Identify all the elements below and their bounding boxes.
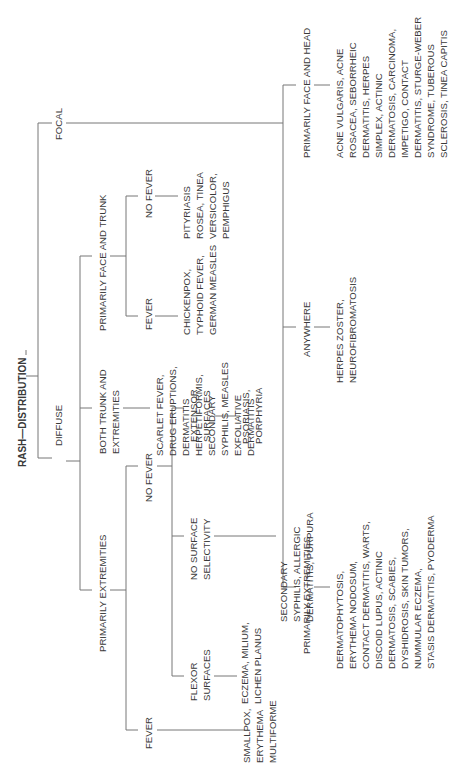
svg-text:CHICKENPOX,: CHICKENPOX, bbox=[181, 269, 192, 335]
svg-text:TYPHOID FEVER,: TYPHOID FEVER, bbox=[194, 255, 205, 335]
leaf-pft-fever: CHICKENPOX, TYPHOID FEVER, GERMAN MEASLE… bbox=[181, 245, 218, 335]
node-pft-no-fever: NO FEVER bbox=[143, 169, 154, 218]
svg-text:VERSICOLOR,: VERSICOLOR, bbox=[207, 173, 218, 239]
svg-text:EXFOLIATIVE: EXFOLIATIVE bbox=[232, 395, 243, 456]
svg-text:SIMPLEX, ACTINIC: SIMPLEX, ACTINIC bbox=[373, 73, 384, 158]
leaf-focal-anywhere: HERPES ZOSTER, NEUROFIBROMATOSIS bbox=[334, 277, 358, 383]
svg-text:SECONDARY: SECONDARY bbox=[278, 561, 289, 622]
leaf-no-surface: SECONDARY SYPHILIS, ALLERGIC DERMATITIS,… bbox=[278, 512, 315, 622]
node-both-trunk-line2: EXTREMITIES bbox=[110, 390, 121, 454]
node-focal-face-head: PRIMARILY FACE AND HEAD bbox=[301, 28, 312, 158]
node-focal-anywhere: ANYWHERE bbox=[301, 302, 312, 357]
svg-text:NUMMULAR ECZEMA,: NUMMULAR ECZEMA, bbox=[412, 568, 423, 669]
svg-text:MULTIFORME: MULTIFORME bbox=[267, 700, 278, 763]
leaf-flexor: ECZEMA, MILIUM, LICHEN PLANUS bbox=[239, 622, 263, 704]
leaf-pe-fever: SMALLPOX, ERYTHEMA MULTIFORME bbox=[241, 700, 278, 763]
svg-text:STASIS DERMATITIS, PYODERMA: STASIS DERMATITIS, PYODERMA bbox=[425, 515, 436, 669]
svg-text:SMALLPOX,: SMALLPOX, bbox=[241, 709, 252, 763]
node-pft-fever: FEVER bbox=[143, 298, 154, 330]
svg-text:ROSEA, TINEA: ROSEA, TINEA bbox=[194, 171, 205, 239]
tree-diagram: RASH—DISTRIBUTION DIFFUSE FOCAL PRIMARIL… bbox=[0, 0, 451, 768]
leaf-focal-face-head: ACNE VULGARIS, ACNE ROSACEA, SEBORRHEIC … bbox=[334, 17, 449, 158]
svg-text:DERMATOPHYTOSIS,: DERMATOPHYTOSIS, bbox=[334, 571, 345, 669]
svg-text:NEUROFIBROMATOSIS: NEUROFIBROMATOSIS bbox=[347, 277, 358, 383]
rash-distribution-diagram: RASH—DISTRIBUTION DIFFUSE FOCAL PRIMARIL… bbox=[0, 0, 451, 768]
svg-text:IMPETIGO, CONTACT: IMPETIGO, CONTACT bbox=[399, 60, 410, 158]
svg-text:CONTACT DERMATITIS, WARTS,: CONTACT DERMATITIS, WARTS, bbox=[360, 521, 371, 669]
svg-text:DERMATITIS, HERPES: DERMATITIS, HERPES bbox=[360, 56, 371, 158]
svg-text:SYPHILIS, ALLERGIC: SYPHILIS, ALLERGIC bbox=[291, 526, 302, 622]
leaf-pft-no-fever: PITYRIASIS ROSEA, TINEA VERSICOLOR, PEMP… bbox=[181, 171, 231, 239]
node-pe-fever: FEVER bbox=[143, 717, 154, 749]
node-no-surface-line2: SELECTIVITY bbox=[201, 518, 212, 580]
svg-text:HERPETIFORMIS,: HERPETIFORMIS, bbox=[193, 374, 204, 456]
node-both-trunk-line1: BOTH TRUNK AND bbox=[97, 369, 108, 454]
node-no-surface-line1: NO SURFACE bbox=[188, 518, 199, 580]
svg-text:ROSACEA, SEBORRHEIC: ROSACEA, SEBORRHEIC bbox=[347, 42, 358, 158]
svg-text:ERYTHEMA: ERYTHEMA bbox=[254, 709, 265, 763]
svg-text:ERYTHEMA NODOSUM,: ERYTHEMA NODOSUM, bbox=[347, 561, 358, 669]
node-diffuse: DIFFUSE bbox=[53, 405, 64, 446]
svg-text:SECONDARY: SECONDARY bbox=[206, 395, 217, 456]
svg-text:ECZEMA, MILIUM,: ECZEMA, MILIUM, bbox=[239, 622, 250, 704]
svg-text:DERMATITIS, STURGE-WEBER: DERMATITIS, STURGE-WEBER bbox=[412, 17, 423, 158]
svg-text:SCARLET FEVER,: SCARLET FEVER, bbox=[154, 375, 165, 456]
node-primarily-extremities: PRIMARILY EXTREMITIES bbox=[97, 535, 108, 652]
svg-text:PITYRIASIS: PITYRIASIS bbox=[181, 186, 192, 239]
svg-text:DERMATITIS: DERMATITIS bbox=[245, 399, 256, 456]
connector-lines bbox=[26, 85, 330, 730]
svg-text:DERMATOSIS, SCABIES,: DERMATOSIS, SCABIES, bbox=[386, 557, 397, 669]
svg-text:DERMATITIS: DERMATITIS bbox=[180, 399, 191, 456]
svg-text:DERMATITIS, PURPURA: DERMATITIS, PURPURA bbox=[304, 512, 315, 622]
svg-text:DERMATOSIS, CARCINOMA,: DERMATOSIS, CARCINOMA, bbox=[386, 29, 397, 158]
svg-text:GERMAN MEASLES: GERMAN MEASLES bbox=[207, 245, 218, 335]
diagram-title: RASH—DISTRIBUTION bbox=[17, 358, 28, 467]
node-primarily-face-trunk: PRIMARILY FACE AND TRUNK bbox=[97, 194, 108, 331]
svg-text:DRUG ERUPTIONS,: DRUG ERUPTIONS, bbox=[167, 366, 178, 456]
svg-text:SYPHILIS, MEASLES: SYPHILIS, MEASLES bbox=[219, 362, 230, 456]
node-flexor-line2: SURFACES bbox=[201, 649, 212, 701]
svg-text:DISCOID LUPUS, ACTINIC: DISCOID LUPUS, ACTINIC bbox=[373, 551, 384, 669]
leaf-focal-extremities: DERMATOPHYTOSIS, ERYTHEMA NODOSUM, CONTA… bbox=[334, 515, 436, 669]
svg-text:DYSHIDROSIS, SKIN TUMORS,: DYSHIDROSIS, SKIN TUMORS, bbox=[399, 528, 410, 669]
svg-text:PEMPHIGUS: PEMPHIGUS bbox=[220, 181, 231, 239]
node-pe-no-fever: NO FEVER bbox=[143, 453, 154, 502]
svg-text:SYNDROME, TUBEROUS: SYNDROME, TUBEROUS bbox=[425, 44, 436, 158]
svg-text:ACNE VULGARIS, ACNE: ACNE VULGARIS, ACNE bbox=[334, 49, 345, 158]
svg-text:HERPES ZOSTER,: HERPES ZOSTER, bbox=[334, 299, 345, 383]
node-flexor-line1: FLEXOR bbox=[188, 663, 199, 701]
node-focal: FOCAL bbox=[53, 107, 64, 140]
svg-text:SCLEROSIS, TINEA CAPITIS: SCLEROSIS, TINEA CAPITIS bbox=[438, 30, 449, 158]
svg-text:LICHEN PLANUS: LICHEN PLANUS bbox=[252, 628, 263, 704]
